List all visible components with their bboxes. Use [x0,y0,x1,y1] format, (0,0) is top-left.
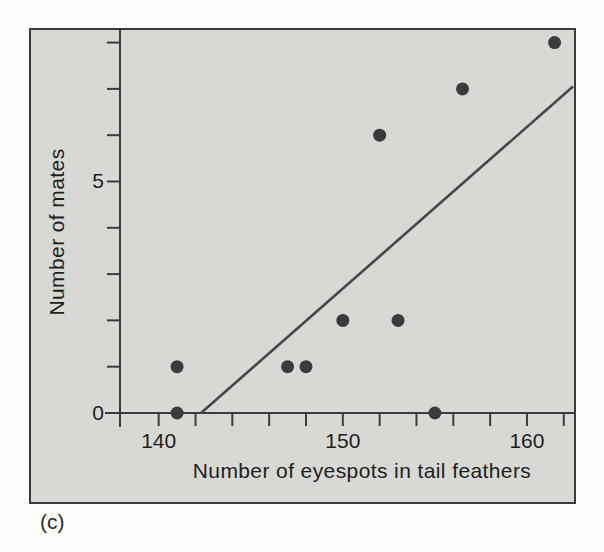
y-axis-title: Number of mates [45,148,69,315]
data-point [456,82,469,95]
y-tick-label: 5 [92,169,104,193]
panel-caption: (c) [40,510,65,534]
y-tick-label: 0 [92,401,104,425]
x-tick-label: 140 [141,429,176,453]
data-point [281,360,294,373]
trend-line [201,87,573,413]
x-axis-title: Number of eyespots in tail feathers [193,459,532,483]
data-point [428,407,441,420]
data-point [548,36,561,49]
data-point [392,314,405,327]
data-point [373,129,386,142]
data-point [171,360,184,373]
data-point [299,360,312,373]
x-tick-label: 160 [509,429,544,453]
data-point [171,407,184,420]
data-point [336,314,349,327]
x-tick-label: 150 [325,429,360,453]
figure-page: Number of mates Number of eyespots in ta… [0,0,604,552]
